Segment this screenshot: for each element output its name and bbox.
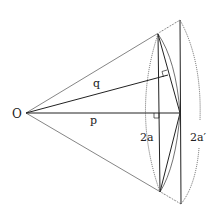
label-2a: 2a <box>140 131 154 144</box>
label-p: p <box>90 114 97 127</box>
side-chord-lower <box>160 113 180 192</box>
label-origin: O <box>12 107 22 121</box>
ray-upper <box>26 20 180 113</box>
label-q: q <box>93 77 100 90</box>
arc-dotted-right-top <box>180 20 200 120</box>
label-2a-prime: 2a′ <box>190 131 207 144</box>
diagram-canvas: O q p 2a 2a′ <box>0 0 219 220</box>
side-chord-upper <box>158 34 180 113</box>
right-angle-p <box>154 113 159 118</box>
geometry-diagram: O q p 2a 2a′ <box>0 0 219 220</box>
arc-dotted-right-bottom <box>181 148 199 204</box>
ray-lower <box>26 113 181 204</box>
ray-upper-dash <box>158 20 180 33</box>
